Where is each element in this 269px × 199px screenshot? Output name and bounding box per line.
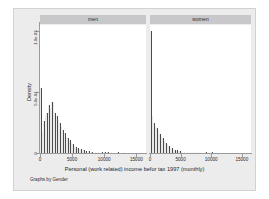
chart-screenshot: men women Density Personal (work related… bbox=[0, 0, 269, 199]
y-axis-line bbox=[39, 22, 40, 153]
histogram-bars-women bbox=[150, 25, 251, 153]
x-axis-tick-label: 5000 bbox=[67, 157, 77, 162]
y-axis-title: Density bbox=[26, 83, 32, 101]
y-axis-tick-label: 1.0e-03 bbox=[33, 31, 38, 45]
x-axis-tick-label: 0 bbox=[149, 157, 152, 162]
plot-area-men bbox=[40, 25, 146, 153]
x-axis-tick-label: 10000 bbox=[98, 157, 111, 162]
panel-title-men: men bbox=[40, 15, 146, 24]
histogram-bars-men bbox=[40, 25, 146, 153]
x-axis-tick-label: 0 bbox=[39, 157, 42, 162]
x-axis-line-women bbox=[149, 153, 252, 154]
x-axis-tick-label: 5000 bbox=[175, 157, 185, 162]
panel-title-women: women bbox=[150, 15, 251, 24]
x-axis-line-men bbox=[39, 153, 147, 154]
x-axis-tick-label: 15000 bbox=[130, 157, 143, 162]
y-axis-tick-label: 0 bbox=[33, 153, 38, 155]
graph-note: Graphs by Gender bbox=[30, 177, 68, 182]
x-axis-title: Personal (work related) income befor tax… bbox=[13, 166, 256, 172]
y-axis-tick-label: 5.0e-04 bbox=[33, 92, 38, 106]
plot-area-women bbox=[150, 25, 251, 153]
x-axis-tick-label: 15000 bbox=[235, 157, 248, 162]
x-axis-tick-label: 10000 bbox=[205, 157, 218, 162]
